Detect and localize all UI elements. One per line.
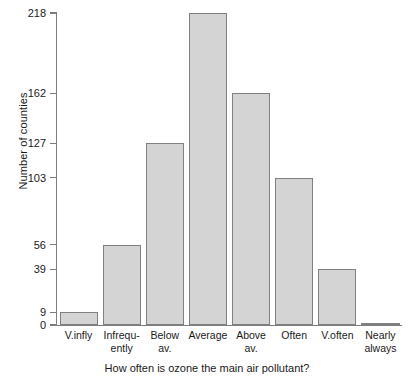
y-tick-label: 56 bbox=[34, 239, 46, 251]
bar bbox=[232, 93, 270, 325]
bar bbox=[275, 178, 313, 325]
y-tick-label: 0 bbox=[40, 319, 46, 331]
y-tick: 39 bbox=[50, 269, 57, 270]
y-tick: 9 bbox=[50, 312, 57, 313]
bar-chart: Number of counties 093956103127162218 V.… bbox=[0, 0, 414, 379]
bar bbox=[146, 143, 184, 325]
y-tick: 162 bbox=[50, 93, 57, 94]
y-tick: 56 bbox=[50, 244, 57, 245]
bar bbox=[189, 13, 227, 325]
bar-series bbox=[57, 13, 402, 325]
bar bbox=[103, 245, 141, 325]
y-tick-label: 9 bbox=[40, 306, 46, 318]
x-axis-title: How often is ozone the main air pollutan… bbox=[0, 362, 414, 374]
y-tick-label: 127 bbox=[28, 137, 46, 149]
x-axis-tick-labels: V.inflyInfrequ-entlyBelowav.AverageAbove… bbox=[57, 329, 402, 359]
y-tick: 127 bbox=[50, 143, 57, 144]
y-tick-label: 103 bbox=[28, 172, 46, 184]
plot-area: 093956103127162218 bbox=[57, 13, 402, 325]
y-tick: 103 bbox=[50, 177, 57, 178]
y-tick-label: 162 bbox=[28, 87, 46, 99]
bar bbox=[318, 269, 356, 325]
x-tick-label: Nearlyalways bbox=[355, 329, 406, 354]
y-tick-label: 218 bbox=[28, 7, 46, 19]
y-tick-label: 39 bbox=[34, 263, 46, 275]
y-tick: 218 bbox=[50, 12, 57, 13]
y-tick: 0 bbox=[50, 324, 57, 325]
bar bbox=[361, 323, 399, 326]
bar bbox=[60, 312, 98, 325]
